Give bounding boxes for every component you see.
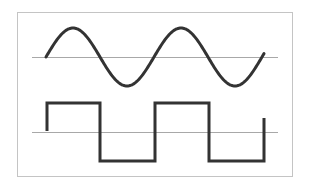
waveform-diagram: [0, 0, 309, 187]
waveform-figure: [0, 0, 309, 187]
